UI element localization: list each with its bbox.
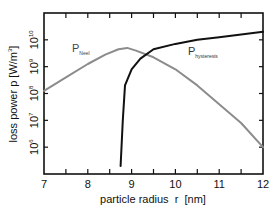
x-axis-title: particle radius r [nm]	[100, 193, 206, 205]
svg-text:106: 106	[28, 139, 40, 155]
series-line-p-neel	[44, 48, 263, 147]
series-label-neel: PNeel	[72, 42, 90, 56]
x-axis-ticks: 789101112	[41, 13, 269, 190]
svg-text:109: 109	[28, 58, 40, 74]
y-tick-label: 108	[28, 85, 40, 101]
plot-frame	[44, 13, 263, 174]
svg-text:loss power p [W/m3]: loss power p [W/m3]	[7, 46, 19, 143]
y-axis-title: loss power p [W/m3]	[7, 46, 19, 143]
x-tick-label: 10	[169, 178, 181, 190]
svg-text:1010: 1010	[28, 30, 40, 50]
svg-text:108: 108	[28, 85, 40, 101]
series-labels: PNeelPhysteresis	[72, 42, 218, 59]
y-tick-label: 107	[28, 112, 40, 128]
x-tick-label: 7	[41, 178, 47, 190]
x-tick-label: 11	[213, 178, 224, 190]
chart: 789101112 1010109108107106 PNeelPhystere…	[0, 0, 280, 211]
plot-border	[44, 13, 263, 174]
y-axis-ticks: 1010109108107106	[28, 30, 263, 155]
series-label-hysteresis: Physteresis	[188, 45, 218, 59]
y-tick-label: 106	[28, 139, 40, 155]
x-tick-label: 12	[257, 178, 269, 190]
svg-text:107: 107	[28, 112, 40, 128]
x-tick-label: 9	[129, 178, 135, 190]
x-tick-label: 8	[85, 178, 91, 190]
y-tick-label: 109	[28, 58, 40, 74]
y-tick-label: 1010	[28, 30, 40, 50]
